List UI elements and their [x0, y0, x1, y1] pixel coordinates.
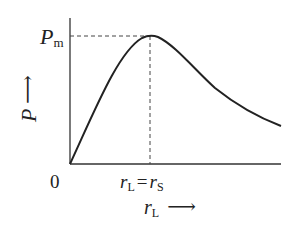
peak-label: Pm: [39, 24, 64, 50]
power-curve: [70, 36, 281, 164]
power-diagram: Pm P ⟶ 0 rL=rS rL⟶: [0, 0, 299, 237]
origin-label: 0: [50, 171, 60, 192]
x-arrow-icon: ⟶: [167, 195, 196, 217]
y-axis-label: P ⟶: [16, 75, 41, 123]
peak-condition-label: rL=rS: [120, 171, 164, 194]
svg-text:P: P: [16, 109, 41, 123]
y-arrow-icon: ⟶: [16, 75, 38, 104]
x-axis-label: rL⟶: [144, 195, 196, 220]
